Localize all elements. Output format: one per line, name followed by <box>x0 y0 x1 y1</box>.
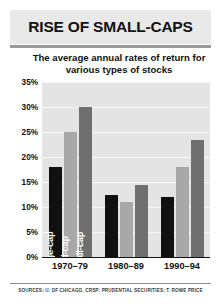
y-axis-tick-label: 0% <box>0 253 38 262</box>
x-axis-tick-label: 1980–89 <box>98 261 154 271</box>
chart-title: RISE OF SMALL-CAPS <box>10 14 211 40</box>
gridline <box>42 107 210 108</box>
x-axis-line <box>42 257 210 258</box>
bar <box>176 167 189 257</box>
bar: Small-cap <box>79 107 92 257</box>
x-axis-tick-label: 1990–94 <box>154 261 210 271</box>
source-note: SOURCES: U. OF CHICAGO, CRSP; PRUDENTIAL… <box>10 288 211 293</box>
bar <box>120 202 133 257</box>
x-axis-tick-label: 1970–79 <box>42 261 98 271</box>
bar <box>191 140 204 258</box>
chart-subtitle: The average annual rates of return for v… <box>28 52 210 75</box>
y-axis-tick-label: 35% <box>0 78 38 87</box>
y-axis-tick-label: 5% <box>0 228 38 237</box>
y-axis-tick-label: 30% <box>0 103 38 112</box>
gridline <box>42 82 210 83</box>
y-axis-tick-label: 20% <box>0 153 38 162</box>
y-axis-tick-label: 10% <box>0 203 38 212</box>
chart-figure: RISE OF SMALL-CAPS The average annual ra… <box>0 0 221 308</box>
source-divider <box>10 283 211 284</box>
y-axis-tick-label: 15% <box>0 178 38 187</box>
y-axis-tick-label: 25% <box>0 128 38 137</box>
title-divider <box>10 45 211 48</box>
bar <box>105 195 118 258</box>
bar <box>161 197 174 257</box>
bar <box>135 185 148 258</box>
plot-area: Large-capMid-capSmall-cap <box>42 82 210 257</box>
